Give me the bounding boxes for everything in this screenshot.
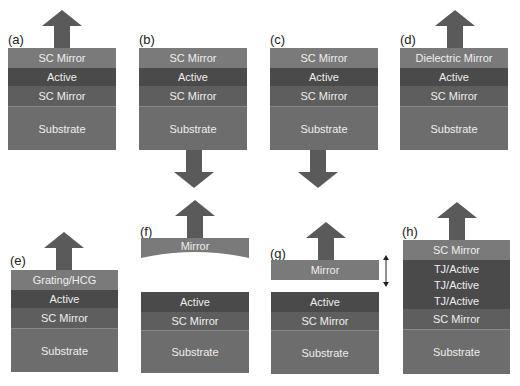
bottom-mirror-layer: SC Mirror (141, 312, 249, 330)
arrow-up-icon (44, 232, 84, 270)
bottom-mirror-layer: SC Mirror (400, 86, 508, 106)
top-mirror-layer: SC Mirror (139, 48, 247, 68)
top-mirror-layer: SC Mirror (270, 48, 378, 68)
panel-label-a: (a) (8, 32, 24, 47)
double-arrow-icon (382, 255, 390, 287)
panel-label-f: (f) (140, 224, 152, 239)
substrate-layer: Substrate (400, 106, 508, 150)
arrow-down-icon (174, 150, 214, 188)
bottom-mirror-layer: SC Mirror (11, 308, 118, 328)
active-layer: Active (271, 292, 379, 312)
tj-active-layer: TJ/Active (403, 293, 510, 309)
substrate-layer: Substrate (8, 106, 116, 150)
substrate-layer: Substrate (11, 328, 118, 372)
bottom-mirror-layer: SC Mirror (270, 86, 378, 106)
panel-label-g: (g) (270, 246, 286, 261)
movable-mirror-layer: Mirror (271, 260, 379, 280)
grating-layer: Grating/HCG (11, 270, 118, 290)
panel-label-b: (b) (139, 32, 155, 47)
tj-active-layer: TJ/Active (403, 260, 510, 277)
arrow-up-icon (306, 222, 346, 260)
arrow-down-icon (298, 150, 338, 188)
active-layer: Active (141, 292, 249, 312)
panel-label-c: (c) (270, 32, 285, 47)
substrate-layer: Substrate (403, 329, 510, 374)
tj-active-layer: TJ/Active (403, 277, 510, 293)
dielectric-mirror-layer: Dielectric Mirror (400, 48, 508, 68)
active-layer: Active (139, 68, 247, 86)
active-layer: Active (8, 68, 116, 86)
substrate-layer: Substrate (270, 106, 378, 150)
vcsel-diagram: (a) SC Mirror Active SC Mirror Substrate… (0, 0, 520, 386)
arrow-up-icon (435, 10, 475, 48)
substrate-layer: Substrate (141, 330, 249, 373)
active-layer: Active (400, 68, 508, 86)
bottom-mirror-layer: SC Mirror (139, 86, 247, 106)
panel-label-h: (h) (402, 224, 418, 239)
bottom-mirror-layer: SC Mirror (8, 86, 116, 106)
arrow-up-icon (437, 202, 477, 240)
panel-label-e: (e) (10, 253, 26, 268)
bottom-mirror-layer: SC Mirror (403, 309, 510, 329)
top-mirror-layer: SC Mirror (8, 48, 116, 68)
curved-mirror-label: Mirror (141, 238, 249, 254)
panel-label-d: (d) (400, 32, 416, 47)
active-layer: Active (270, 68, 378, 86)
substrate-layer: Substrate (271, 330, 379, 374)
top-mirror-layer: SC Mirror (403, 240, 510, 260)
substrate-layer: Substrate (139, 106, 247, 150)
bottom-mirror-layer: SC Mirror (271, 312, 379, 330)
arrow-up-icon (42, 10, 82, 48)
arrow-up-icon (175, 200, 215, 238)
active-layer: Active (11, 290, 118, 308)
